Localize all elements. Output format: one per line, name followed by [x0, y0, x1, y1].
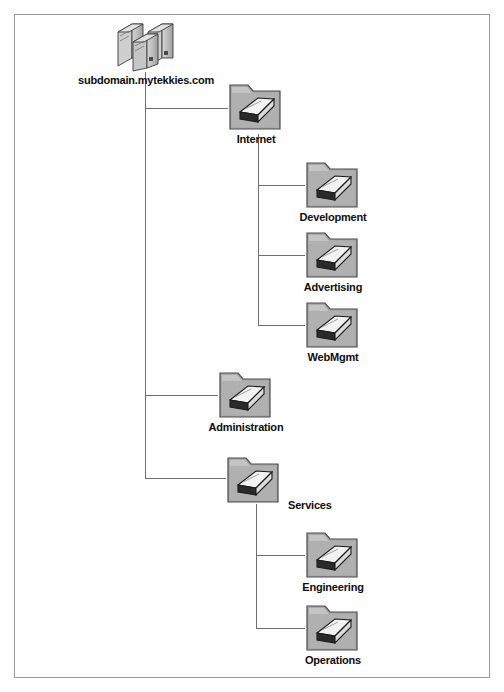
folder-book-icon — [228, 82, 284, 132]
node-services-label: Services — [288, 499, 332, 511]
folder-book-icon — [226, 455, 282, 505]
server-stack-icon — [114, 20, 178, 72]
node-development-label: Development — [300, 211, 367, 223]
folder-book-icon — [305, 300, 361, 350]
folder-book-icon — [305, 160, 361, 210]
node-advertising[interactable]: Advertising — [305, 230, 361, 280]
node-root-server[interactable]: subdomain.mytekkies.com — [114, 20, 178, 72]
node-webmgmt[interactable]: WebMgmt — [305, 300, 361, 350]
node-operations-label: Operations — [305, 654, 361, 666]
node-webmgmt-label: WebMgmt — [308, 351, 359, 363]
node-administration-label: Administration — [209, 421, 284, 433]
folder-book-icon — [305, 603, 361, 653]
node-services[interactable]: Services — [226, 455, 282, 505]
node-development[interactable]: Development — [305, 160, 361, 210]
node-operations[interactable]: Operations — [305, 603, 361, 653]
folder-book-icon — [218, 370, 274, 420]
node-internet[interactable]: Internet — [228, 82, 284, 132]
diagram-page: subdomain.mytekkies.com Internet — [0, 0, 504, 692]
folder-book-icon — [305, 530, 361, 580]
node-engineering-label: Engineering — [302, 581, 363, 593]
node-internet-label: Internet — [237, 133, 276, 145]
node-engineering[interactable]: Engineering — [305, 530, 361, 580]
node-administration[interactable]: Administration — [218, 370, 274, 420]
node-advertising-label: Advertising — [304, 281, 362, 293]
node-root-label: subdomain.mytekkies.com — [78, 74, 214, 86]
folder-book-icon — [305, 230, 361, 280]
